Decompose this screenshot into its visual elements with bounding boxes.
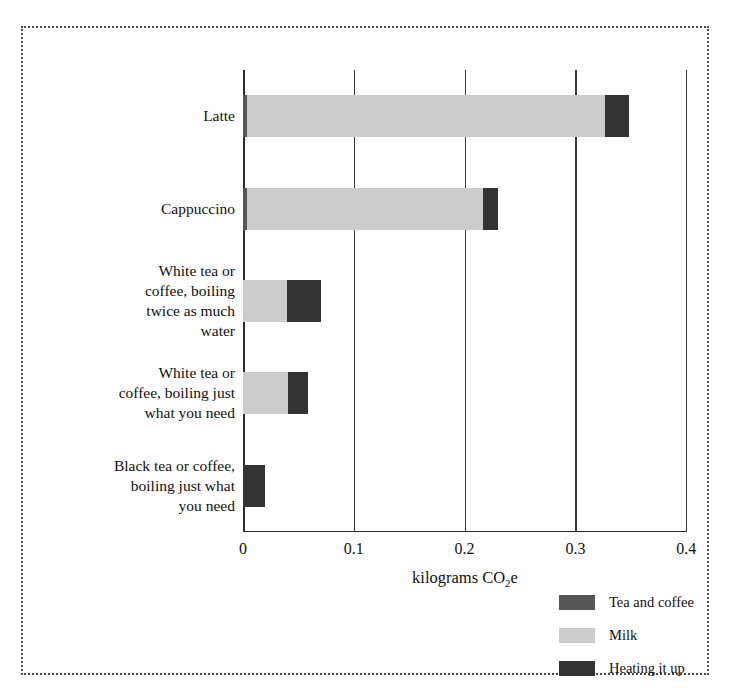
category-label: White tea or coffee, boiling just what y… [119,363,235,423]
category-label: Latte [203,106,235,126]
category-axis-labels: LatteCappuccinoWhite tea or coffee, boil… [23,70,235,532]
bar-row [243,372,308,414]
legend-item: Tea and coffee [559,586,729,619]
category-label: Black tea or coffee, boiling just what y… [114,456,235,516]
chart-legend: Tea and coffeeMilkHeating it up [559,586,729,685]
bar-segment-milk [247,188,483,230]
gridline-0-4 [686,70,687,532]
x-axis-tick-labels: 00.10.20.30.4 [243,540,703,566]
bar-segment-heating-it-up [287,280,320,322]
legend-swatch-heating-it-up [559,661,595,676]
legend-swatch-milk [559,628,595,643]
bar-segment-heating-it-up [243,465,265,507]
x-tick-label-0-3: 0.3 [565,540,585,558]
bar-row [243,188,498,230]
x-tick-label-0-2: 0.2 [455,540,475,558]
figure-frame: LatteCappuccinoWhite tea or coffee, boil… [21,26,709,675]
legend-swatch-tea-and-coffee [559,595,595,610]
x-tick-label-0: 0 [239,540,247,558]
legend-label: Tea and coffee [609,594,694,611]
bar-row [243,465,265,507]
legend-label: Heating it up [609,660,685,677]
legend-label: Milk [609,627,637,644]
bar-segment-heating-it-up [288,372,308,414]
category-label: White tea or coffee, boiling twice as mu… [145,261,235,341]
legend-item: Heating it up [559,652,729,685]
bar-segment-milk [243,372,288,414]
bar-segment-heating-it-up [483,188,497,230]
bar-row [243,95,629,137]
x-axis-title: kilograms CO2e [243,568,687,588]
gridline-0-1 [354,70,355,532]
category-label: Cappuccino [161,199,235,219]
legend-item: Milk [559,619,729,652]
gridline-0-3 [575,70,576,532]
gridline-0-2 [465,70,466,532]
bar-segment-heating-it-up [605,95,628,137]
bar-row [243,280,321,322]
x-tick-label-0-1: 0.1 [344,540,364,558]
plot-area [243,70,687,532]
bar-segment-milk [247,95,605,137]
x-tick-label-0-4: 0.4 [676,540,696,558]
bar-segment-milk [243,280,287,322]
